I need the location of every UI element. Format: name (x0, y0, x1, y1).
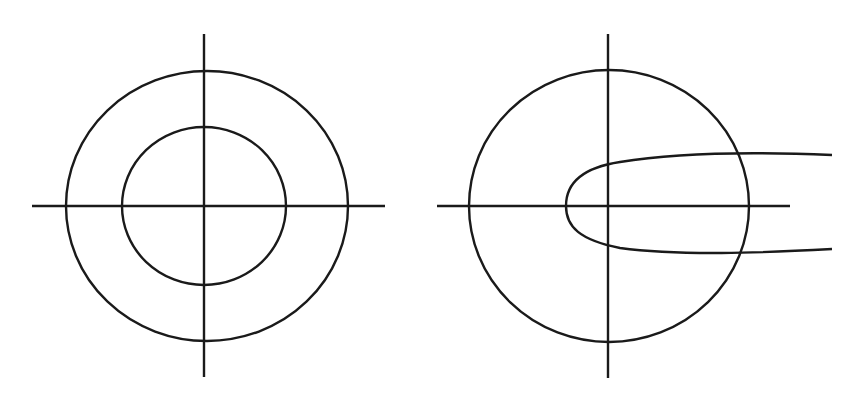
right-parabola-curve (566, 153, 832, 253)
right-panel (437, 34, 832, 378)
left-panel (32, 34, 385, 377)
diagram-svg (0, 0, 866, 398)
diagram-canvas (0, 0, 866, 398)
